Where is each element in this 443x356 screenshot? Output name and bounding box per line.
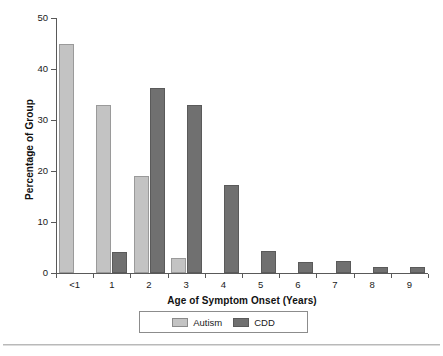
figure-canvas: Percentage of Group 01020304050 <1123456… [0, 0, 443, 356]
y-tick-label: 0 [20, 268, 48, 278]
bar-cdd-8 [373, 267, 388, 273]
y-tick-label: 50 [20, 13, 48, 23]
x-tick-label: 4 [205, 279, 242, 290]
x-tick-label: 5 [242, 279, 279, 290]
y-tick-label: 40 [20, 64, 48, 74]
x-tick-mark [242, 274, 243, 278]
x-tick-mark [56, 274, 57, 278]
x-tick-label: 2 [130, 279, 167, 290]
x-tick-mark [168, 274, 169, 278]
legend-swatch-autism-icon [172, 318, 188, 327]
legend-swatch-cdd-icon [233, 318, 249, 327]
bar-series-layer [56, 18, 428, 273]
bar-cdd-7 [336, 261, 351, 273]
bar-cdd-9 [410, 267, 425, 273]
x-tick-mark [205, 274, 206, 278]
chart-legend: Autism CDD [139, 311, 308, 333]
bar-cdd-6 [298, 262, 313, 273]
x-tick-mark [316, 274, 317, 278]
bar-cdd-3 [187, 105, 202, 273]
x-tick-mark [428, 274, 429, 278]
y-tick-label: 30 [20, 115, 48, 125]
bar-autism-2 [134, 176, 149, 273]
x-tick-mark [279, 274, 280, 278]
x-tick-mark [93, 274, 94, 278]
legend-label-cdd: CDD [254, 317, 275, 328]
x-tick-label: 3 [168, 279, 205, 290]
bar-autism-1 [96, 105, 111, 273]
bar-cdd-1 [112, 252, 127, 273]
x-tick-label: 1 [93, 279, 130, 290]
y-tick-label: 10 [20, 217, 48, 227]
y-axis-title: Percentage of Group [24, 60, 35, 240]
bar-cdd-2 [150, 88, 165, 273]
bar-autism-lt1 [59, 44, 74, 274]
bar-autism-3 [171, 258, 186, 273]
bar-cdd-5 [261, 251, 276, 273]
x-tick-label: 6 [279, 279, 316, 290]
legend-entry-cdd: CDD [233, 317, 275, 328]
x-tick-label: 9 [391, 279, 428, 290]
x-tick-mark [391, 274, 392, 278]
x-tick-mark [354, 274, 355, 278]
y-tick-label: 20 [20, 166, 48, 176]
page-divider-line-shadow [3, 345, 440, 346]
x-tick-mark [130, 274, 131, 278]
bar-cdd-4 [224, 185, 239, 273]
x-tick-label: <1 [56, 279, 93, 290]
x-axis-title: Age of Symptom Onset (Years) [56, 295, 428, 306]
x-tick-label: 8 [354, 279, 391, 290]
x-tick-label: 7 [316, 279, 353, 290]
legend-entry-autism: Autism [172, 317, 222, 328]
legend-label-autism: Autism [193, 317, 222, 328]
